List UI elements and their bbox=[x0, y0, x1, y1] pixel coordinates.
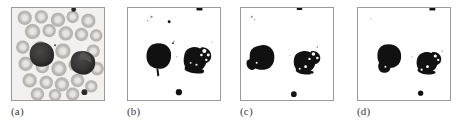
panel-b-segmentation bbox=[127, 7, 221, 101]
panel-a-image bbox=[12, 8, 104, 100]
panel-a-caption: (a) bbox=[11, 104, 24, 118]
panel-a-original-micrograph bbox=[11, 7, 105, 101]
panel-d-image bbox=[358, 8, 450, 100]
panel-c-caption: (c) bbox=[240, 104, 253, 118]
panel-b-caption: (b) bbox=[127, 104, 140, 118]
panel-b-image bbox=[128, 8, 220, 100]
panel-c-segmentation bbox=[240, 7, 334, 101]
panel-c-image bbox=[241, 8, 333, 100]
panel-d-segmentation bbox=[357, 7, 451, 101]
panel-d-caption: (d) bbox=[357, 104, 370, 118]
figure-panel-series: (a) (b) (c) (d) bbox=[0, 0, 468, 130]
